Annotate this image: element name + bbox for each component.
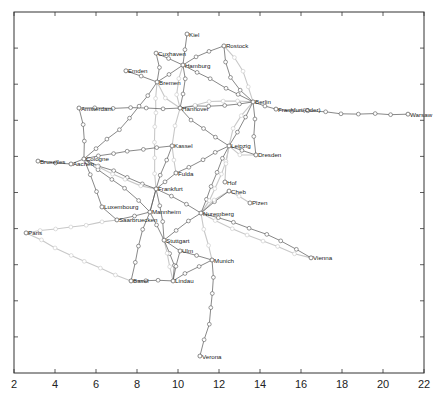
waypoint-node	[153, 172, 157, 176]
city-node: Emden	[124, 67, 148, 74]
waypoint-node	[133, 260, 137, 264]
waypoint-node	[231, 127, 235, 131]
waypoint-node	[170, 194, 174, 198]
waypoint-node	[96, 165, 100, 169]
city-label: Emden	[128, 67, 148, 74]
city-node: Amsterdam	[77, 105, 113, 112]
waypoint-node	[183, 272, 187, 276]
waypoint-node	[210, 292, 214, 296]
x-tick-label: 6	[93, 378, 99, 390]
waypoint-node	[129, 106, 133, 110]
waypoint-node	[94, 147, 98, 151]
city-label: Nuremberg	[203, 210, 235, 217]
waypoint-node	[215, 170, 219, 174]
waypoint-node	[389, 113, 393, 117]
waypoint-node	[154, 97, 158, 101]
city-node: Berlin	[251, 98, 271, 105]
waypoint-node	[356, 112, 360, 116]
waypoint-node	[247, 226, 251, 230]
city-label: Paris	[28, 229, 42, 236]
x-tick-label: 20	[377, 378, 389, 390]
waypoint-node	[253, 117, 257, 121]
city-label: Kiel	[189, 31, 199, 38]
city-label: Bremen	[159, 79, 181, 86]
city-node: Fulda	[174, 170, 194, 177]
waypoint-node	[207, 100, 211, 104]
waypoint-node	[221, 99, 225, 103]
city-node: Frankfurt	[154, 185, 183, 192]
waypoint-node	[195, 71, 199, 75]
waypoint-node	[105, 137, 109, 141]
network-edge	[164, 240, 173, 281]
waypoint-node	[156, 278, 160, 282]
x-tick-label: 2	[11, 378, 17, 390]
waypoint-node	[110, 178, 114, 182]
axes-frame	[14, 12, 424, 373]
city-node: Paris	[24, 229, 42, 236]
waypoint-node	[174, 229, 178, 233]
waypoint-node	[238, 88, 242, 92]
waypoint-node	[202, 227, 206, 231]
city-node: Cuxhaven	[154, 50, 186, 57]
waypoint-node	[69, 254, 73, 258]
waypoint-node	[163, 180, 167, 184]
waypoint-node	[95, 190, 99, 194]
waypoint-node	[155, 223, 159, 227]
city-node: Frankfurt(Oder)	[274, 106, 321, 113]
waypoint-node	[114, 273, 118, 277]
waypoint-node	[88, 173, 92, 177]
waypoint-node	[224, 60, 228, 64]
waypoint-node	[221, 156, 225, 160]
waypoint-node	[324, 110, 328, 114]
x-tick-label: 22	[418, 378, 430, 390]
x-tick-label: 12	[213, 378, 225, 390]
waypoint-node	[213, 187, 217, 191]
waypoint-node	[209, 306, 213, 310]
city-label: Rostock	[226, 42, 249, 49]
waypoint-node	[163, 96, 167, 100]
waypoint-node	[208, 77, 212, 81]
city-node: Verona	[198, 353, 222, 360]
city-node: Plzen	[248, 199, 268, 206]
network-edge	[201, 213, 311, 258]
waypoint-node	[173, 124, 177, 128]
waypoint-node	[246, 85, 250, 89]
waypoint-node	[207, 244, 211, 248]
city-node: Rostock	[222, 42, 249, 49]
waypoint-node	[244, 115, 248, 119]
waypoint-node	[40, 238, 44, 242]
x-tick-label: 16	[295, 378, 307, 390]
waypoint-node	[118, 128, 122, 132]
waypoint-node	[237, 194, 241, 198]
waypoint-node	[232, 56, 236, 60]
waypoint-node	[232, 220, 236, 224]
waypoint-node	[137, 104, 141, 108]
waypoint-node	[339, 112, 343, 116]
city-node: Warsaw	[406, 111, 433, 118]
waypoint-node	[125, 149, 129, 153]
waypoint-node	[111, 172, 115, 176]
waypoint-node	[153, 156, 157, 160]
waypoint-node	[158, 204, 162, 208]
waypoint-node	[141, 228, 145, 232]
city-node: Hamburg	[181, 62, 211, 69]
city-node: Mannheim	[148, 208, 181, 215]
waypoint-node	[230, 227, 234, 231]
city-label: Lindau	[175, 277, 194, 284]
waypoint-node	[224, 86, 228, 90]
waypoint-node	[158, 173, 162, 177]
waypoint-node	[202, 338, 206, 342]
waypoint-node	[236, 99, 240, 103]
waypoint-node	[137, 199, 141, 203]
waypoint-node	[207, 322, 211, 326]
network-edge	[84, 159, 156, 189]
waypoint-node	[175, 93, 179, 97]
waypoint-node	[167, 57, 171, 61]
city-label: Munich	[214, 257, 235, 264]
city-label: Vienna	[313, 254, 333, 261]
waypoint-node	[165, 158, 169, 162]
waypoint-node	[373, 112, 377, 116]
plot-canvas: KielCuxhavenHamburgRostockEmdenBremenBer…	[0, 0, 437, 397]
waypoint-node	[155, 146, 159, 150]
city-label: Stuttgart	[166, 237, 190, 244]
